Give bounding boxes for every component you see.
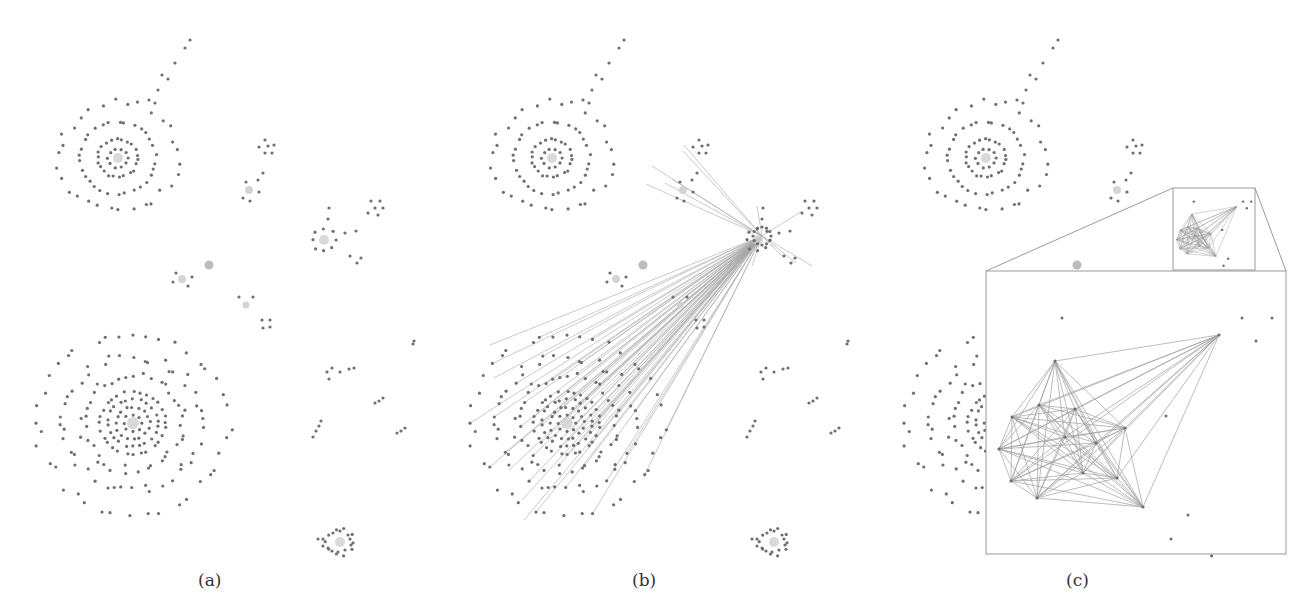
graph-node [925,151,928,154]
graph-node [71,390,74,393]
graph-node [634,409,637,412]
graph-node [598,383,601,386]
graph-node [168,370,171,373]
graph-node [908,430,911,433]
graph-node [628,391,631,394]
graph-node [155,153,158,156]
graph-node [474,430,477,433]
graph-node [837,426,840,429]
graph-node [596,119,599,122]
graph-node [607,399,610,402]
graph-node [745,238,748,241]
graph-node [164,455,167,458]
graph-node [1035,496,1038,499]
graph-node [1021,162,1024,165]
graph-node [342,554,345,557]
graph-node [86,365,89,368]
graph-node [1008,127,1011,130]
graph-node [148,138,151,141]
graph-node [261,171,264,174]
graph-node [1009,479,1012,482]
graph-node [782,254,785,257]
graph-node [759,370,762,373]
graph-node [350,548,353,551]
graph-node [132,453,135,456]
graph-node [347,367,350,370]
graph-node [591,441,594,444]
graph-node [761,206,764,209]
graph-node [133,207,136,210]
graph-node [133,390,136,393]
graph-node [156,425,159,428]
graph-node [695,326,698,329]
hub-node-icon [679,186,687,194]
graph-node [527,391,530,394]
graph-node [617,46,620,49]
graph-node [546,436,549,439]
graph-node [256,178,259,181]
graph-node [532,421,535,424]
panel-label-a: (a) [198,570,221,590]
graph-node [556,174,559,177]
graph-node [99,430,102,433]
graph-node [567,124,570,127]
graph-node [1003,162,1006,165]
graph-node [948,148,951,151]
graph-node [505,390,508,393]
graph-node [987,121,990,124]
graph-node [133,189,136,192]
graph-node [143,432,146,435]
graph-node [171,280,174,283]
graph-node [922,465,925,468]
graph-node [589,413,592,416]
graph-node [770,550,773,553]
graph-node [617,409,620,412]
graph-node [982,166,985,169]
graph-node [975,355,978,358]
graph-node [965,161,968,164]
graph-edge [622,236,762,374]
graph-node [582,427,585,430]
graph-node [567,390,570,393]
graph-node [96,461,99,464]
graph-node [979,382,982,385]
graph-node [764,549,767,552]
graph-node [336,550,339,553]
graph-node [327,206,330,209]
graph-node [489,167,492,170]
graph-node [613,468,616,471]
graph-node [558,161,561,164]
graph-node [966,421,969,424]
graph-node [373,401,376,404]
graph-node [928,133,931,136]
graph-node [314,429,317,432]
graph-node [108,162,111,165]
hub-node-icon [981,153,991,163]
zoom-connector-line [986,188,1173,271]
graph-node [366,211,369,214]
graph-node [608,271,611,274]
graph-node [161,434,164,437]
graph-node [103,437,106,440]
graph-edge [762,236,796,263]
graph-node [135,162,138,165]
graph-node [1019,144,1022,147]
graph-node [1140,143,1143,146]
graph-node [174,271,177,274]
graph-node [633,480,636,483]
graph-node [581,512,584,515]
graph-node [536,104,539,107]
graph-node [199,480,202,483]
hub-node-icon [335,537,345,547]
graph-node [566,356,569,359]
graph-node [611,173,614,176]
graph-node [753,419,756,422]
graph-node [186,373,189,376]
graph-node [148,490,151,493]
graph-node [132,356,135,359]
graph-node [619,351,622,354]
graph-node [57,151,60,154]
graph-node [589,153,592,156]
graph-node [988,165,991,168]
graph-node [578,131,581,134]
